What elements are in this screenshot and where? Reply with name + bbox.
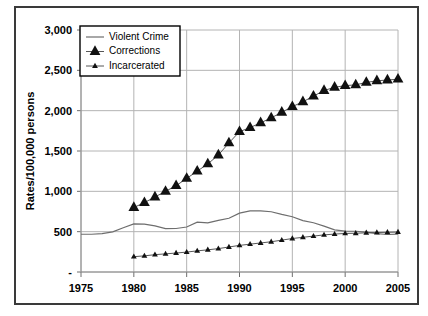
data-point-marker (163, 251, 169, 256)
x-axis-tick-label: 1980 (122, 282, 146, 294)
data-point-marker (171, 179, 182, 189)
x-axis-tick-label: 1990 (227, 282, 251, 294)
x-axis-tick-label: 2005 (386, 282, 410, 294)
x-axis-tick-label: 1975 (69, 282, 93, 294)
y-axis-tick-label: 3,000 (44, 24, 72, 36)
data-point-marker (350, 79, 361, 89)
data-point-marker (371, 75, 382, 85)
data-point-marker (173, 250, 179, 255)
data-point-marker (266, 112, 277, 122)
line-chart: -5001,0001,5002,0002,5003,00019751980198… (0, 0, 428, 316)
data-point-marker (329, 81, 340, 91)
y-axis-tick-label: 2,000 (44, 105, 72, 117)
y-axis-title: Rates/100,000 persons (24, 92, 36, 211)
data-point-marker (150, 191, 161, 201)
x-axis-tick-label: 1985 (174, 282, 198, 294)
legend-item-label: Corrections (109, 45, 160, 56)
data-point-marker (361, 76, 372, 86)
x-axis-tick-label: 1995 (280, 282, 304, 294)
data-point-marker (224, 137, 235, 147)
data-point-marker (131, 253, 137, 258)
data-point-marker (340, 79, 351, 89)
data-point-marker (160, 185, 171, 195)
y-axis-tick-label: 1,500 (44, 145, 72, 157)
data-point-marker (382, 74, 393, 84)
data-point-marker (152, 251, 158, 256)
y-axis-tick-label: 1,000 (44, 185, 72, 197)
legend-item-label: Violent Crime (109, 31, 169, 42)
series-line-incarcerated (134, 232, 398, 257)
data-point-marker (181, 172, 192, 182)
legend-item-label: Incarcerated (109, 60, 165, 71)
y-axis-tick-label: - (68, 266, 72, 278)
x-axis-tick-label: 2000 (333, 282, 357, 294)
y-axis-tick-label: 500 (54, 226, 72, 238)
y-axis-tick-label: 2,500 (44, 64, 72, 76)
data-point-marker (139, 196, 150, 206)
plot-area-wrapper: -5001,0001,5002,0002,5003,00019751980198… (0, 0, 428, 316)
data-point-marker (321, 232, 327, 237)
data-point-marker (308, 90, 319, 100)
data-point-marker (202, 158, 213, 168)
data-point-marker (192, 165, 203, 175)
chart-figure: -5001,0001,5002,0002,5003,00019751980198… (0, 0, 428, 316)
data-point-marker (298, 96, 309, 106)
data-point-marker (393, 73, 404, 83)
